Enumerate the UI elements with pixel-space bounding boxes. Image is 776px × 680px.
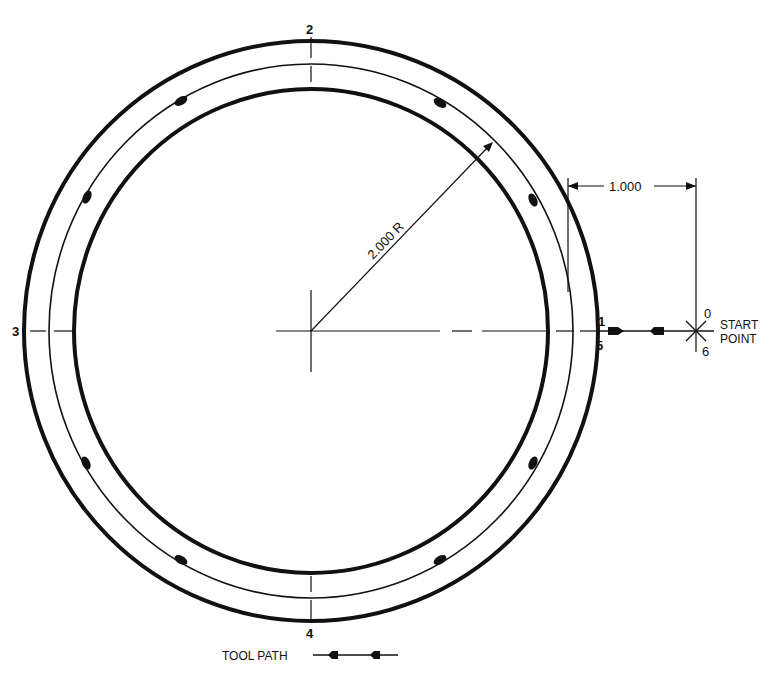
start-point-label-line2: POINT [720, 332, 757, 346]
tool-path-arrow-icon [79, 455, 92, 471]
point-label-4: 4 [306, 626, 314, 641]
dim-arrow-right-icon [686, 182, 696, 190]
offset-dimension [568, 178, 696, 352]
point-label-3: 3 [12, 324, 19, 339]
point-label-0: 0 [704, 306, 711, 321]
tool-path-arrow-icon [432, 553, 448, 567]
tool-path-arrow-icon [80, 189, 93, 205]
tool-path-arrow-icon [650, 327, 664, 335]
start-point-label-line1: START [720, 318, 759, 332]
point-label-6: 6 [702, 344, 709, 359]
tool-path-arrow-icon [526, 192, 539, 208]
tool-path-arrow-icon [526, 455, 539, 471]
point-label-1: 1 [598, 314, 605, 329]
legend-arrow-icon [328, 651, 338, 659]
radius-label: 2.000 R [364, 219, 406, 262]
tool-path-drawing: 2.000 R 1.000 2 3 4 1 5 0 6 START POIN [0, 0, 776, 680]
tool-path-arrow-icon [608, 327, 624, 335]
dim-arrow-left-icon [568, 182, 578, 190]
legend-label: TOOL PATH [222, 649, 288, 663]
point-label-5: 5 [596, 338, 603, 353]
radius-dimension: 2.000 R [311, 142, 493, 331]
point-label-2: 2 [306, 22, 313, 37]
legend-arrow-icon [370, 651, 380, 659]
tool-path-arrow-icon [173, 553, 189, 567]
legend: TOOL PATH [222, 649, 398, 663]
offset-label: 1.000 [609, 179, 642, 194]
